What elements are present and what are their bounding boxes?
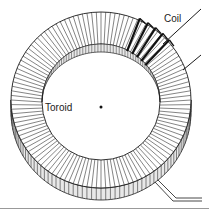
coil-lead-lower (183, 55, 201, 70)
center-dot (100, 106, 103, 109)
toroid-top-face (11, 12, 191, 188)
toroid-leads (155, 180, 202, 201)
toroid-label: Toroid (45, 102, 72, 113)
toroid-lead-1 (158, 180, 202, 198)
toroid-diagram: Coil Toroid (0, 0, 209, 217)
coil-label: Coil (164, 13, 181, 24)
